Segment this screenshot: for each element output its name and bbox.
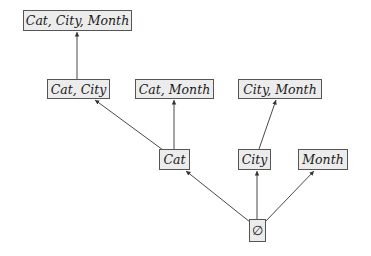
node-cat-month: Cat, Month: [135, 79, 214, 99]
node-empty-set: ∅: [249, 219, 266, 242]
edge-city-to-city-month: [259, 100, 276, 149]
edge-empty-to-month: [265, 171, 314, 222]
edges-layer: [0, 0, 371, 256]
edge-empty-to-cat: [186, 171, 250, 222]
edge-cat-to-cat-city: [95, 100, 163, 150]
node-cat-city: Cat, City: [47, 79, 110, 99]
node-cat: Cat: [159, 149, 190, 170]
node-city: City: [238, 149, 271, 170]
node-cat-city-month: Cat, City, Month: [23, 10, 132, 31]
node-month: Month: [298, 149, 348, 170]
node-city-month: City, Month: [238, 79, 322, 99]
